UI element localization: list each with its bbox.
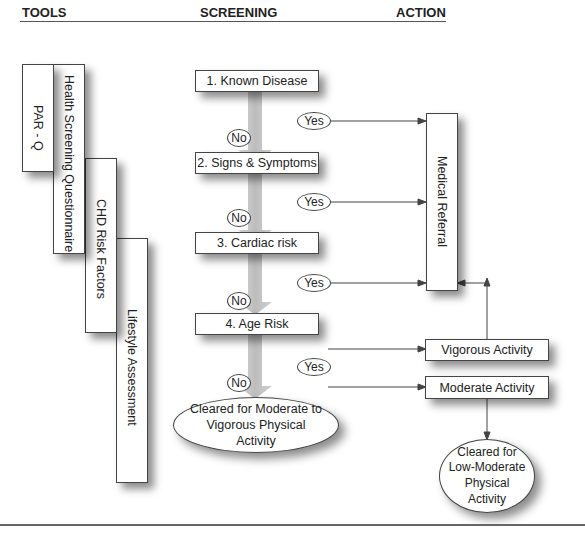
step-cardiac-risk: 3. Cardiac risk: [195, 232, 319, 254]
step-signs-symptoms: 2. Signs & Symptoms: [195, 152, 319, 174]
yes-label-4: Yes: [297, 358, 331, 376]
yes-label-2: Yes: [297, 193, 331, 211]
no-label-2: No: [227, 209, 251, 227]
no-label-1: No: [227, 129, 251, 147]
yes-label-1: Yes: [297, 112, 331, 130]
cleared-moderate-vigorous: Cleared for Moderate to Vigorous Physica…: [173, 397, 339, 453]
medical-referral-label: Medical Referral: [435, 156, 449, 247]
step-known-disease: 1. Known Disease: [195, 70, 319, 92]
cleared-moderate-vigorous-text: Cleared for Moderate to Vigorous Physica…: [188, 401, 324, 450]
medical-referral: Medical Referral: [426, 113, 458, 291]
step-age-risk: 4. Age Risk: [195, 313, 319, 335]
no-label-3: No: [227, 292, 251, 310]
cleared-low-moderate-text: Cleared for Low-Moderate Physical Activi…: [448, 445, 526, 507]
cleared-low-moderate: Cleared for Low-Moderate Physical Activi…: [439, 439, 535, 513]
bottom-divider: [0, 524, 585, 526]
vigorous-activity: Vigorous Activity: [425, 339, 549, 361]
yes-label-3: Yes: [297, 274, 331, 292]
moderate-activity: Moderate Activity: [425, 376, 549, 399]
no-label-4: No: [227, 374, 251, 392]
